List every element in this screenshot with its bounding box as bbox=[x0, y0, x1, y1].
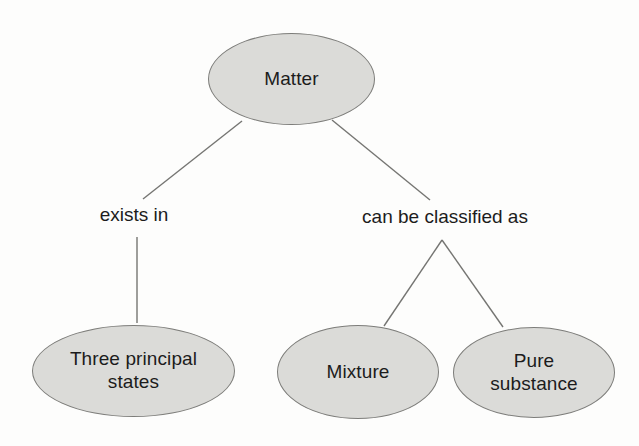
node-mixture: Mixture bbox=[277, 325, 439, 419]
node-pure-substance: Pure substance bbox=[453, 327, 615, 418]
node-three-principal-states: Three principal states bbox=[32, 325, 235, 417]
edge-line-classified-to-pure-substance bbox=[442, 240, 503, 327]
edge-label-exists-in: exists in bbox=[100, 204, 169, 226]
node-pure-substance-label: Pure substance bbox=[490, 350, 578, 396]
node-mixture-label: Mixture bbox=[327, 361, 390, 384]
edge-line-matter-to-can-be-classified-as bbox=[332, 120, 430, 200]
node-matter-label: Matter bbox=[264, 68, 318, 91]
edge-line-classified-to-mixture bbox=[384, 240, 442, 326]
edge-line-matter-to-exists-in bbox=[143, 121, 242, 199]
node-matter: Matter bbox=[208, 33, 375, 125]
node-three-principal-states-label: Three principal states bbox=[70, 348, 197, 394]
edge-label-can-be-classified-as: can be classified as bbox=[362, 206, 528, 228]
concept-map: Matter Three principal states Mixture Pu… bbox=[0, 0, 639, 446]
